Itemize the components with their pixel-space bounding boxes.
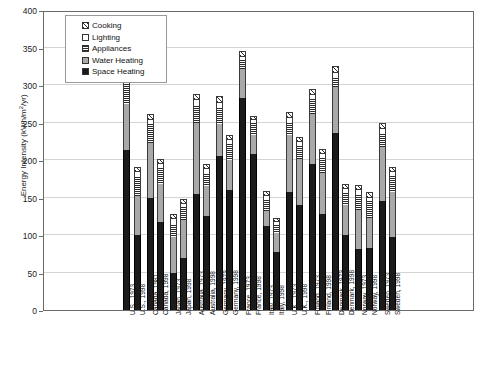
x-axis-tick-label: Australia, 1973	[198, 271, 205, 315]
x-axis-tick-label: U.K., 1973	[291, 284, 298, 315]
x-axis-tick-label: Canada, 1981	[152, 274, 159, 315]
x-axis-tick-label: Australia, 1998	[209, 271, 216, 315]
x-axis-tick-label: U.S., 1973	[129, 284, 136, 315]
legend-label: Space Heating	[92, 67, 144, 76]
legend-item: Lighting	[82, 32, 162, 44]
legend-item: Space Heating	[82, 66, 162, 78]
legend-item: Appliances	[82, 43, 162, 55]
legend-item: Cooking	[82, 20, 162, 32]
x-axis-tick-label: Germany, 1973	[222, 270, 229, 315]
x-axis-tick-label: Japan, 1973	[175, 279, 182, 315]
space-heating-swatch-icon	[82, 68, 89, 75]
legend-item: Water Heating	[82, 55, 162, 67]
x-axis-tick-label: Canada, 1998	[162, 274, 169, 315]
x-axis-tick-label: Sweden, 1998	[394, 273, 401, 315]
x-axis-tick-label: Italy, 1973	[268, 285, 275, 315]
legend-label: Appliances	[92, 44, 131, 53]
x-axis-tick-label: Norway, 1973	[361, 275, 368, 315]
x-axis-tick-label: U.S., 1998	[139, 284, 146, 315]
x-axis-tick-label: Japan, 1998	[185, 279, 192, 315]
appliances-swatch-icon	[82, 45, 89, 52]
x-axis-tick-label: Finland, 1973	[314, 275, 321, 315]
x-axis-tick-label: Norway, 1998	[371, 275, 378, 315]
chart-legend: Cooking Lighting Appliances Water Heatin…	[65, 15, 167, 83]
x-axis-tick-label: Denmark, 1973	[338, 270, 345, 315]
water-heating-swatch-icon	[82, 57, 89, 64]
x-axis-tick-label: Germany, 1998	[232, 270, 239, 315]
x-axis-tick-label: France, 1998	[255, 276, 262, 315]
x-axis-tick-label: Sweden, 1973	[384, 273, 391, 315]
legend-label: Cooking	[92, 21, 121, 30]
x-axis-tick-label: Denmark, 1998	[348, 270, 355, 315]
legend-label: Water Heating	[92, 56, 143, 65]
x-axis-tick-label: Finland, 1998	[325, 275, 332, 315]
legend-label: Lighting	[92, 33, 120, 42]
energy-intensity-chart: Energy Intensity (kWh/m2/yr) 05010015020…	[0, 0, 480, 372]
x-axis-tick-label: France, 1973	[245, 276, 252, 315]
x-axis-tick-label: U.K., 1998	[301, 284, 308, 315]
cooking-swatch-icon	[82, 22, 89, 29]
x-axis-tick-label: Italy, 1998	[278, 285, 285, 315]
lighting-swatch-icon	[82, 34, 89, 41]
